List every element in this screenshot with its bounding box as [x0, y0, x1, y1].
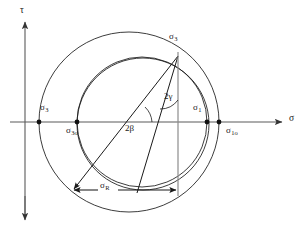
- sigma-axis-label: σ: [289, 114, 294, 124]
- point-sigma3o: [75, 120, 80, 125]
- tau-axis-label: τ: [20, 6, 24, 16]
- label-sigma3o: σ3o: [66, 126, 77, 135]
- label-sigma3-left: σ3: [40, 103, 48, 112]
- label-sigma-R: σR: [100, 181, 109, 190]
- point-sigma1: [205, 120, 210, 125]
- mohr-diagram-canvas: [0, 0, 307, 232]
- mohr-circle-figure: τ σ σ3 σ3o σ1 σ1o σ3 σR 2γ 2β: [0, 0, 307, 232]
- arc-two-beta: [145, 107, 152, 122]
- label-sigma3-apex: σ3: [169, 32, 177, 41]
- label-two-beta: 2β: [125, 124, 134, 133]
- label-two-gamma: 2γ: [164, 92, 172, 101]
- label-sigma1o: σ1o: [226, 126, 237, 135]
- point-sigma1o: [217, 120, 222, 125]
- label-sigma1: σ1: [193, 103, 201, 112]
- chord-two-gamma: [137, 56, 178, 193]
- point-sigma3: [37, 120, 42, 125]
